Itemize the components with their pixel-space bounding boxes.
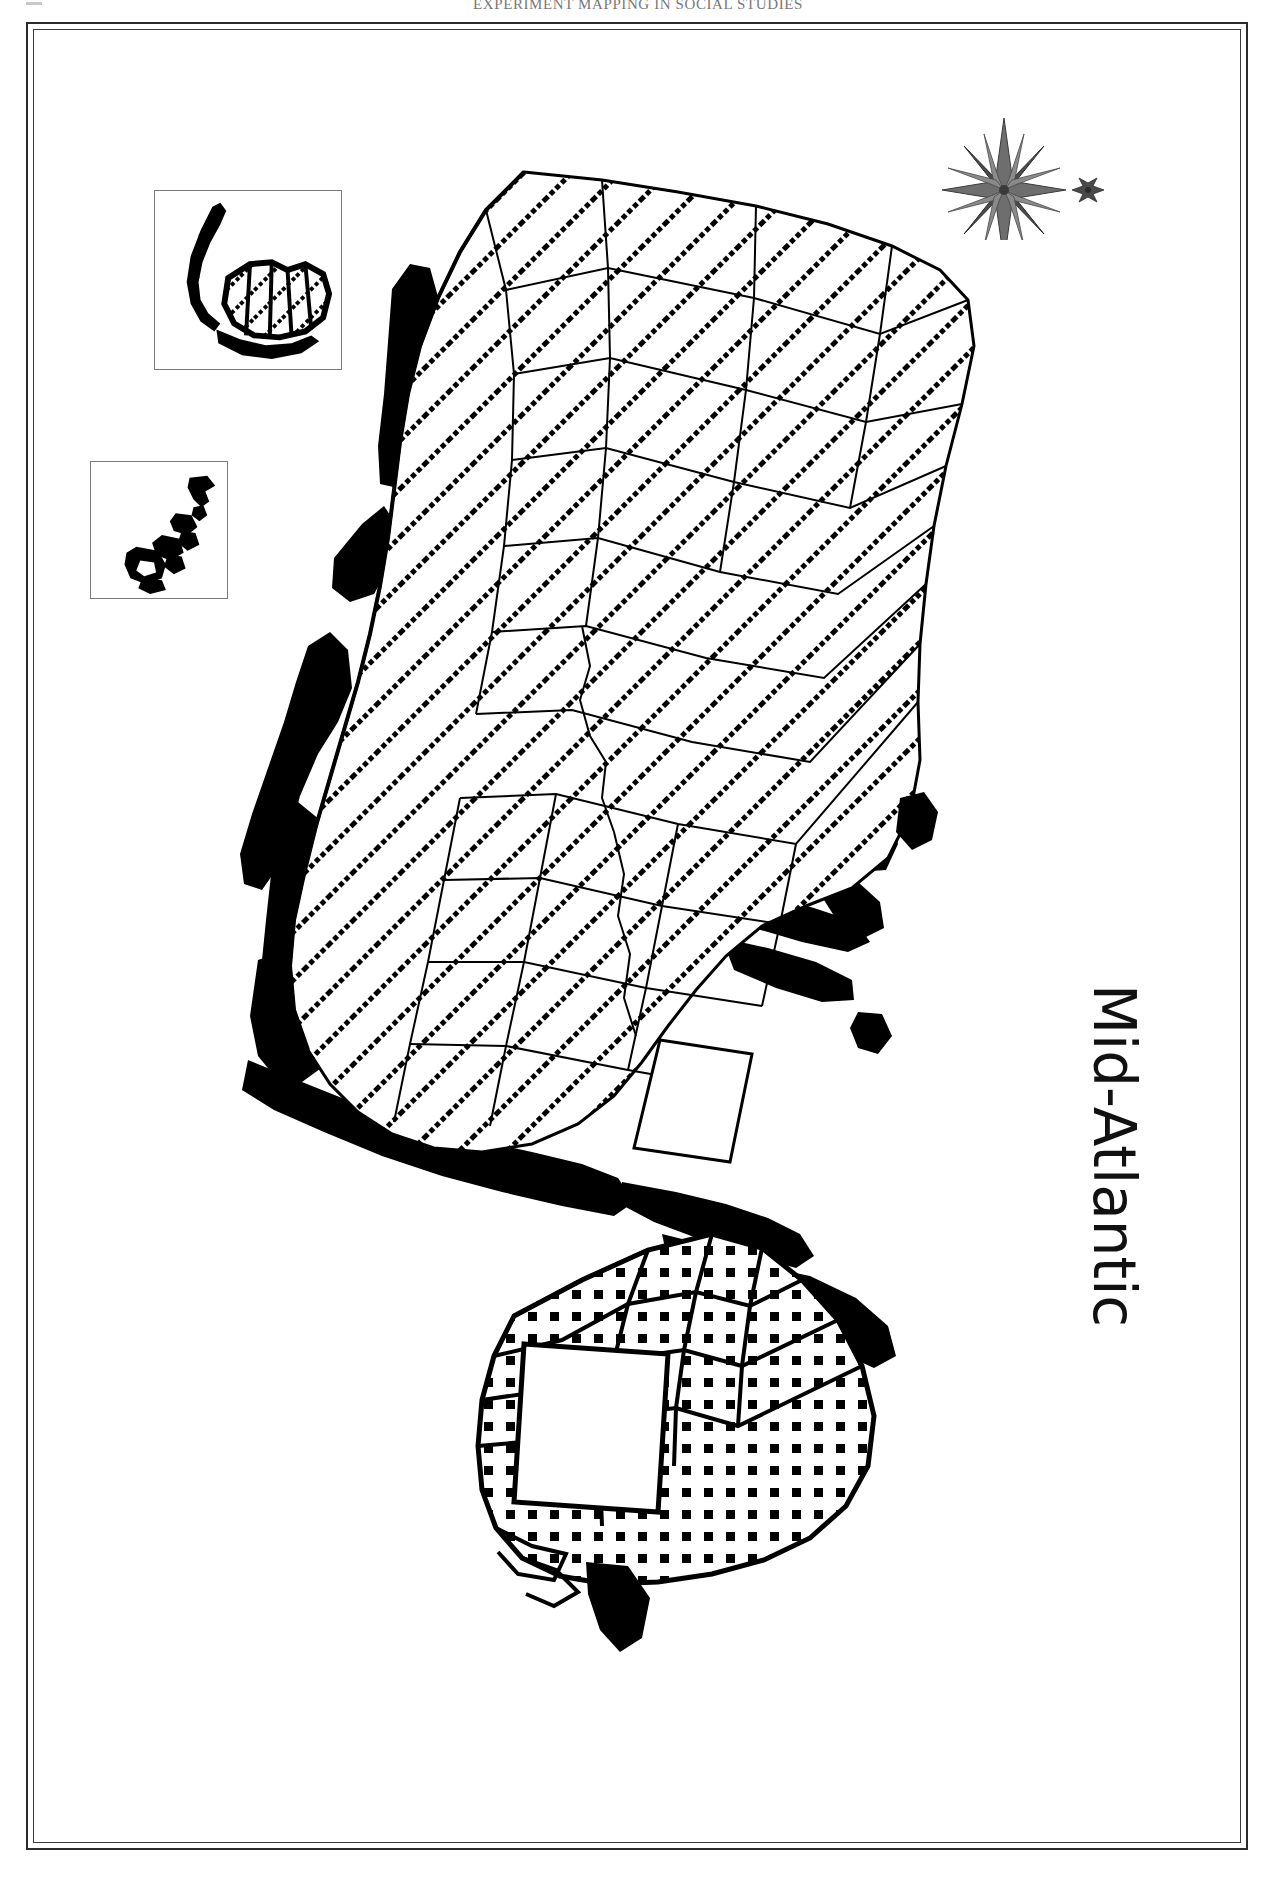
southern-landmass [478,1234,874,1652]
puerto-rico-inset [154,190,342,370]
running-header: EXPERIMENT MAPPING IN SOCIAL STUDIES [0,0,1276,10]
virgin-islands-inset [90,461,228,599]
compass-rose-icon [942,110,1112,240]
map-title: Mid-Atlantic [1080,984,1148,1327]
map-figure: Mid-Atlantic [62,54,1268,1866]
fleur-de-lis-north-icon [1072,178,1104,202]
unshaded-enclave [634,1040,752,1162]
page-border-frame: Mid-Atlantic [26,22,1248,1850]
